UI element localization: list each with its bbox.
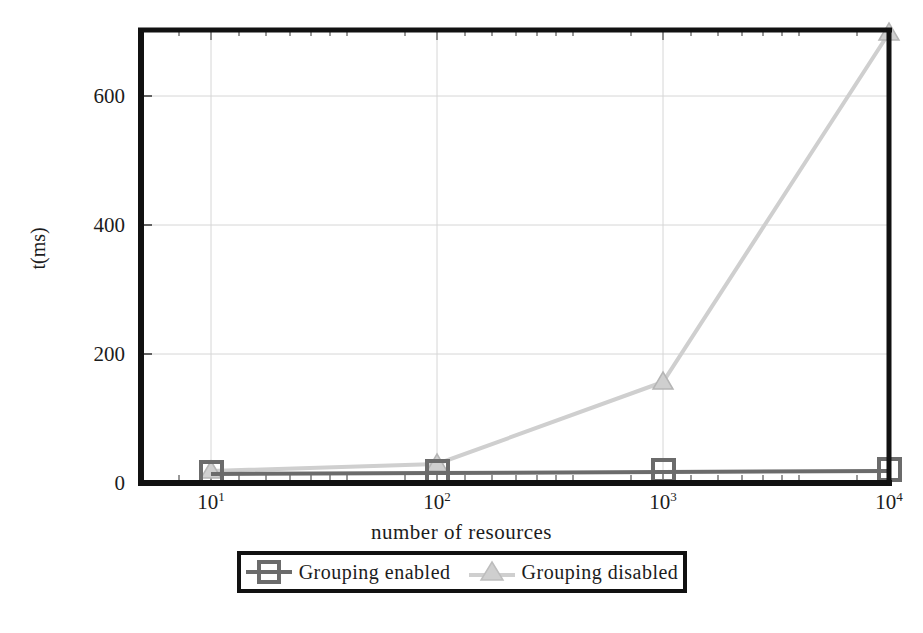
y-tick-label-600: 600 <box>45 84 125 109</box>
legend-label-grouping-disabled: Grouping disabled <box>522 561 679 584</box>
x-tick-exponent: 3 <box>670 489 677 504</box>
series-grouping-enabled <box>201 459 900 483</box>
legend-entry-grouping-enabled[interactable]: Grouping enabled <box>237 559 460 585</box>
x-tick-base: 10 <box>197 490 218 514</box>
x-tick-label-1e2: 102 <box>397 490 477 515</box>
chart-figure: 600 400 200 0 101 102 103 104 t(ms) numb… <box>0 0 923 633</box>
x-tick-base: 10 <box>875 490 896 514</box>
legend-entry-grouping-disabled[interactable]: Grouping disabled <box>460 559 688 585</box>
x-tick-exponent: 1 <box>218 489 225 504</box>
chart-legend: Grouping enabled Grouping disabled <box>237 551 687 593</box>
x-tick-exponent: 4 <box>896 489 903 504</box>
square-marker-icon <box>246 559 292 585</box>
legend-label-grouping-enabled: Grouping enabled <box>299 561 451 584</box>
x-tick-label-1e3: 103 <box>623 490 703 515</box>
y-axis-label: t(ms) <box>27 230 50 270</box>
x-tick-label-1e1: 101 <box>171 490 251 515</box>
series-grouping-disabled <box>201 23 899 478</box>
triangle-marker-icon <box>469 559 515 585</box>
x-tick-base: 10 <box>649 490 670 514</box>
x-tick-base: 10 <box>423 490 444 514</box>
x-axis-label: number of resources <box>0 520 923 545</box>
y-tick-label-400: 400 <box>45 213 125 238</box>
x-tick-exponent: 2 <box>444 489 451 504</box>
y-tick-label-200: 200 <box>45 342 125 367</box>
x-tick-label-1e4: 104 <box>849 490 923 515</box>
axis-frame <box>138 28 892 485</box>
grid-lines <box>141 28 890 483</box>
y-tick-label-0: 0 <box>45 471 125 496</box>
